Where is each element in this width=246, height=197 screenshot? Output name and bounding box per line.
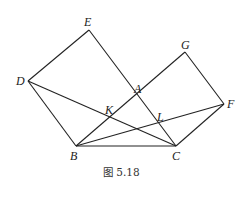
point-label-L: L <box>157 111 164 123</box>
segment-DC <box>28 81 176 146</box>
point-label-F: F <box>227 98 234 110</box>
point-label-A: A <box>134 83 141 95</box>
segment-BF <box>76 104 224 146</box>
segment-FG <box>185 52 224 104</box>
point-label-B: B <box>70 150 77 162</box>
point-label-G: G <box>181 39 190 51</box>
segment-DE <box>28 30 89 81</box>
point-label-C: C <box>172 150 180 162</box>
point-label-D: D <box>16 75 25 87</box>
point-label-E: E <box>84 16 91 28</box>
figure-caption: 图 5.18 <box>103 164 140 179</box>
point-label-K: K <box>105 104 113 116</box>
segment-EC <box>89 30 176 146</box>
segment-GB <box>76 52 185 146</box>
segment-DB <box>28 81 76 146</box>
